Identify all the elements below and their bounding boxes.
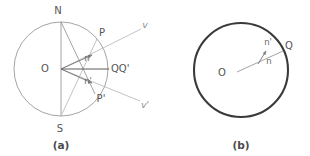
panel-a-label-S: S bbox=[57, 123, 63, 134]
panel-a-label-P-prime: P' bbox=[97, 93, 106, 104]
panel-b: O Q n' n (b) bbox=[194, 23, 293, 151]
panel-a-label-N: N bbox=[54, 5, 61, 16]
panel-b-label-n: n bbox=[266, 56, 271, 66]
panel-a-label-v: v bbox=[142, 19, 148, 30]
panel-b-label-n-prime: n' bbox=[264, 37, 272, 47]
panel-a: N S O P P' QQ' n n' v v' (a) bbox=[14, 5, 149, 151]
panel-a-label-P: P bbox=[99, 27, 105, 38]
panel-a-label-v-prime: v' bbox=[141, 99, 149, 110]
panel-a-label-QQ-prime: QQ' bbox=[111, 63, 130, 74]
panel-a-caption: (a) bbox=[53, 139, 70, 151]
figure-canvas: N S O P P' QQ' n n' v v' (a) O Q n bbox=[0, 0, 310, 156]
panel-a-label-n: n bbox=[84, 53, 89, 63]
panel-b-label-Q: Q bbox=[285, 40, 293, 51]
panel-b-vector-arrow bbox=[258, 51, 266, 64]
panel-b-caption: (b) bbox=[232, 139, 249, 151]
figure-root: N S O P P' QQ' n n' v v' (a) O Q n bbox=[0, 0, 310, 156]
panel-b-label-O: O bbox=[218, 67, 226, 78]
panel-a-label-O: O bbox=[41, 63, 49, 74]
panel-a-label-n-prime: n' bbox=[84, 76, 92, 86]
